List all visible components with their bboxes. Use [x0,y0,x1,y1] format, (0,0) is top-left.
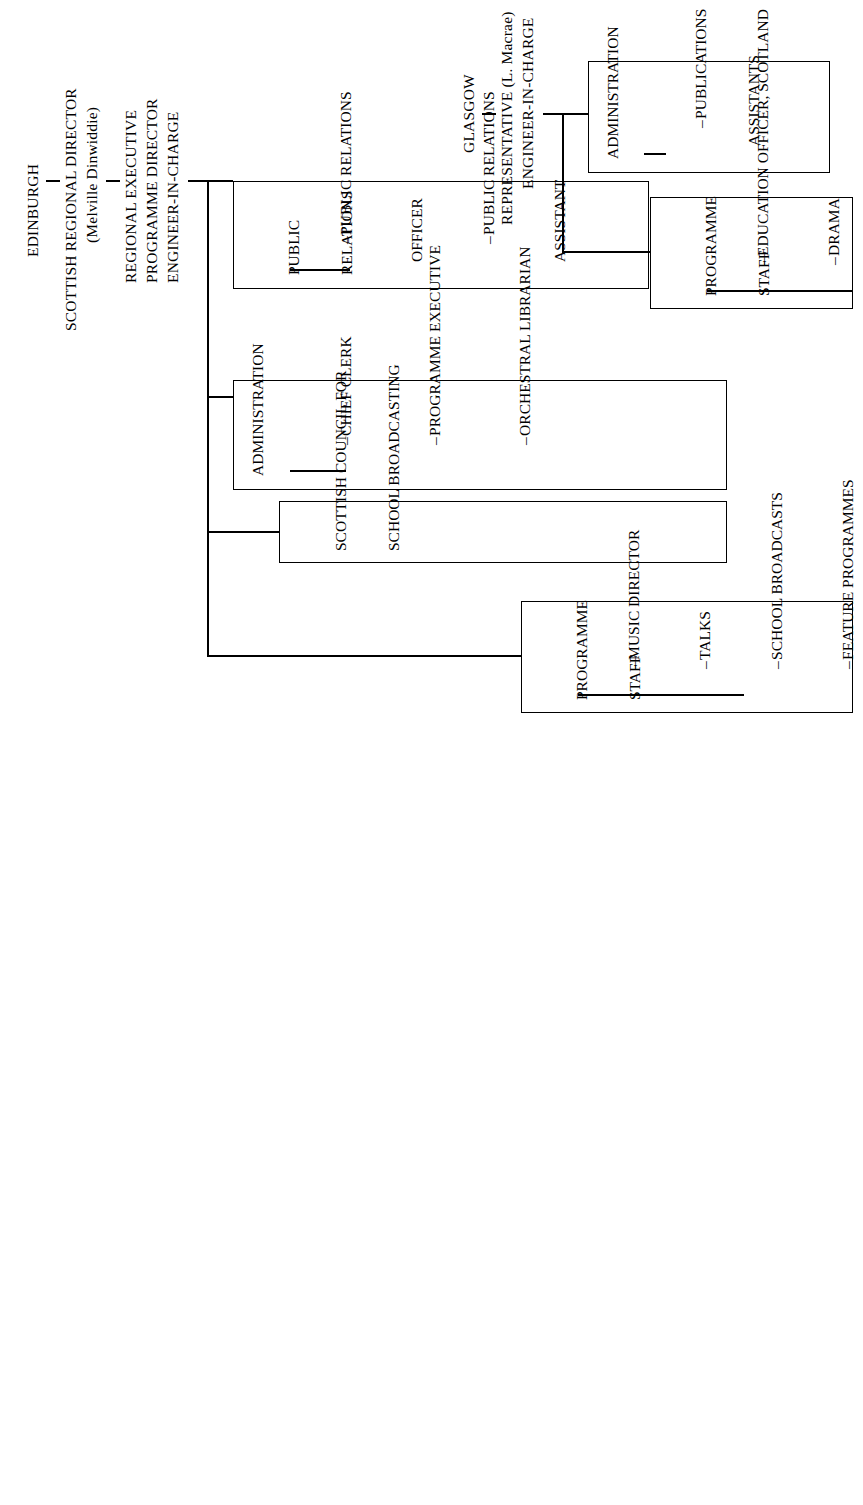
glasgow-engineer-label: ENGINEER-IN-CHARGE [519,18,536,190]
public-relations-item-0-line1: –PUBLIC RELATIONS [319,91,373,271]
connector-glasgow-drop-administration [562,113,588,115]
programme-staff-edinburgh-item-2: –SCHOOL BROADCASTS [750,474,786,696]
administration-edinburgh-item-2: –ORCHESTRAL LIBRARIAN [498,245,552,472]
administration-glasgow-label: ADMINISTRATION [604,26,622,159]
connector-glasgow-drop-programme-staff [562,251,650,253]
connector-edinburgh-bus [207,181,209,657]
connector-director-tick [106,180,120,182]
scottish-council-label-line2: SCHOOL BROADCASTING [385,364,403,551]
public-relations-item-1-line2: ASSISTANT [551,91,569,271]
edinburgh-location-label: EDINBURGH [24,164,41,257]
public-relations-items: –PUBLIC RELATIONS OFFICER –PUBLIC RELATI… [283,91,605,271]
scottish-regional-director-name: (Melville Dinwiddie) [83,107,100,243]
connector-drop-scottish-council [207,531,279,533]
administration-edinburgh-label: ADMINISTRATION [249,343,267,476]
glasgow-location-label: GLASGOW [460,74,477,153]
programme-staff-edinburgh-item-1: –TALKS [678,474,714,696]
scottish-regional-director-title: SCOTTISH REGIONAL DIRECTOR [62,88,79,331]
connector-drop-programme-staff [207,655,521,657]
connector-edinburgh-tick [46,180,60,182]
connector-glasgow-stem [543,113,563,115]
diagram-canvas: EDINBURGH SCOTTISH REGIONAL DIRECTOR (Me… [0,0,863,1505]
connector-edinburgh-stem [188,180,208,182]
edinburgh-officer-1: PROGRAMME DIRECTOR [143,98,160,283]
connector-drop-public-relations [207,180,233,182]
scottish-council-label: SCOTTISH COUNCIL FOR SCHOOL BROADCASTING [296,364,439,551]
glasgow-representative-label: REPRESENTATIVE (L. Macrae) [498,11,515,225]
scottish-council-label-line1: SCOTTISH COUNCIL FOR [332,364,350,551]
public-relations-item-0-line2: OFFICER [408,91,426,271]
programme-staff-glasgow-item-0: –EDUCATION OFFICER, SCOTLAND [736,0,772,292]
programme-staff-glasgow-item-1: –DRAMA [807,0,843,292]
connector-drop-administration [207,396,233,398]
programme-staff-edinburgh-items: –MUSIC DIRECTOR –TALKS –SCHOOL BROADCAST… [571,474,863,696]
connector-glasgow-bus [562,114,564,253]
programme-staff-edinburgh-item-0: –MUSIC DIRECTOR [607,474,643,696]
programme-staff-edinburgh-item-3: –FEATURE PROGRAMMES [821,474,857,696]
edinburgh-officer-0: REGIONAL EXECUTIVE [122,110,139,283]
connector-glasgow-tick [482,113,496,115]
edinburgh-officer-2: ENGINEER-IN-CHARGE [164,112,181,284]
programme-staff-glasgow-items: –EDUCATION OFFICER, SCOTLAND –DRAMA –CHI… [700,0,863,292]
